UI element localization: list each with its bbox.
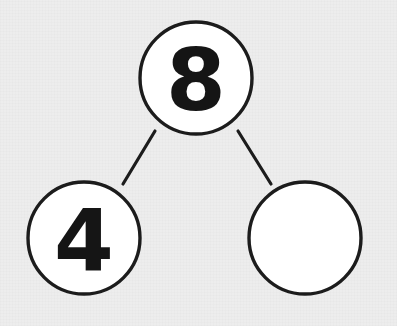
connector-whole-to-left-part (123, 131, 155, 184)
number-bond-canvas: 8 4 (0, 0, 397, 326)
connector-whole-to-right-part (238, 131, 271, 184)
whole-value: 8 (166, 30, 226, 130)
part-right-circle[interactable] (249, 182, 361, 294)
part-left-value: 4 (54, 190, 114, 290)
number-bond-figure: 8 4 (0, 0, 397, 326)
